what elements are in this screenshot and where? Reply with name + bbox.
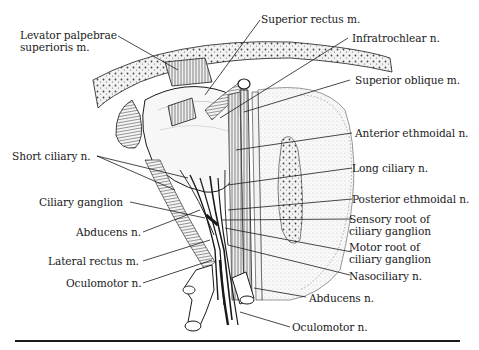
- label-line: Levator palpebrae: [20, 29, 117, 41]
- label-sensory-root: Sensory root of ciliary ganglion: [349, 213, 431, 237]
- label-long-ciliary: Long ciliary n.: [352, 162, 428, 174]
- label-infratrochlear: Infratrochlear n.: [352, 32, 440, 44]
- label-superior-oblique: Superior oblique m.: [355, 74, 460, 86]
- label-short-ciliary: Short ciliary n.: [12, 150, 91, 162]
- lacrimal-gland: [116, 100, 142, 148]
- label-ciliary-ganglion: Ciliary ganglion: [39, 196, 123, 208]
- label-oculomotor-bottom: Oculomotor n.: [292, 321, 368, 333]
- label-nasociliary: Nasociliary n.: [349, 270, 422, 282]
- label-line: Sensory root of: [349, 213, 431, 225]
- label-posterior-ethmoidal: Posterior ethmoidal n.: [352, 193, 469, 205]
- label-abducens-bottom: Abducens n.: [309, 292, 374, 304]
- label-oculomotor-left: Oculomotor n.: [66, 277, 142, 289]
- label-line: superioris m.: [20, 41, 117, 53]
- medial-orbital-wall: [258, 88, 354, 301]
- label-levator-palpebrae: Levator palpebrae superioris m.: [20, 29, 117, 53]
- label-abducens-left: Abducens n.: [76, 226, 141, 238]
- label-line: Motor root of: [349, 241, 431, 253]
- label-motor-root: Motor root of ciliary ganglion: [349, 241, 431, 265]
- label-line: ciliary ganglion: [349, 225, 431, 237]
- label-line: ciliary ganglion: [349, 253, 431, 265]
- label-anterior-ethmoidal: Anterior ethmoidal n.: [355, 127, 468, 139]
- oculomotor-nerve-stump: [183, 265, 214, 331]
- label-lateral-rectus: Lateral rectus m.: [48, 255, 139, 267]
- levator-muscle: [165, 58, 212, 86]
- label-superior-rectus: Superior rectus m.: [261, 13, 360, 25]
- bottom-rule-divider: [15, 340, 460, 342]
